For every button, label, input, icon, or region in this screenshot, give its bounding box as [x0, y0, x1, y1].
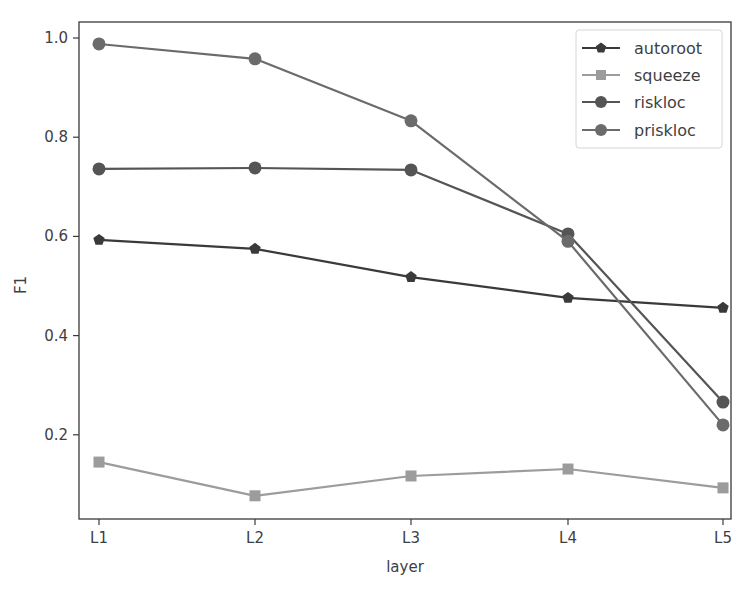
y-axis-label: F1 — [12, 276, 30, 294]
square-marker — [406, 470, 417, 481]
legend: autorootsqueezerisklocpriskloc — [576, 30, 722, 148]
pentagon-marker — [249, 243, 260, 254]
series-autoroot — [93, 234, 728, 313]
square-marker — [718, 482, 729, 493]
circle-marker — [249, 161, 262, 174]
square-marker — [596, 70, 606, 80]
circle-marker — [595, 124, 607, 136]
circle-marker — [562, 235, 575, 248]
square-marker — [250, 490, 261, 501]
circle-marker — [405, 163, 418, 176]
x-axis: L1L2L3L4L5 — [90, 519, 732, 547]
series-riskloc — [93, 161, 730, 408]
pentagon-marker — [405, 271, 416, 282]
square-marker — [94, 457, 105, 468]
circle-marker — [405, 114, 418, 127]
pentagon-marker — [93, 234, 104, 245]
x-tick-label: L5 — [714, 529, 732, 547]
circle-marker — [93, 37, 106, 50]
legend-label: riskloc — [634, 93, 686, 112]
x-tick-label: L2 — [246, 529, 264, 547]
x-tick-label: L4 — [559, 529, 577, 547]
pentagon-marker — [562, 292, 573, 303]
circle-marker — [249, 52, 262, 65]
y-tick-label: 0.2 — [44, 426, 68, 444]
y-tick-label: 0.8 — [44, 128, 68, 146]
y-tick-label: 0.4 — [44, 327, 68, 345]
x-tick-label: L3 — [402, 529, 420, 547]
circle-marker — [595, 96, 607, 108]
series-line — [99, 168, 723, 402]
circle-marker — [93, 162, 106, 175]
line-chart: 0.20.40.60.81.0 L1L2L3L4L5 layer F1 auto… — [0, 0, 742, 595]
y-tick-label: 0.6 — [44, 227, 68, 245]
circle-marker — [717, 418, 730, 431]
y-tick-label: 1.0 — [44, 29, 68, 47]
legend-label: autoroot — [634, 39, 702, 58]
y-axis: 0.20.40.60.81.0 — [44, 29, 79, 444]
x-axis-label: layer — [386, 558, 424, 576]
pentagon-marker — [717, 302, 728, 313]
square-marker — [563, 464, 574, 475]
legend-label: priskloc — [634, 121, 696, 140]
x-tick-label: L1 — [90, 529, 108, 547]
series-squeeze — [94, 457, 729, 502]
legend-label: squeeze — [634, 66, 701, 85]
circle-marker — [717, 396, 730, 409]
